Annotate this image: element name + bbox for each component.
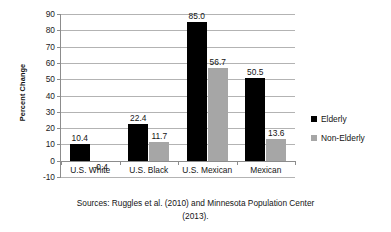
- legend: ElderlyNon-Elderly: [311, 114, 365, 152]
- category-tick: [295, 161, 296, 165]
- category-label-3: Mexican: [250, 165, 281, 175]
- caption-line-2: (2013).: [0, 210, 391, 223]
- y-tick-label: -10: [43, 172, 55, 182]
- category-label-0: U.S. White: [70, 165, 110, 175]
- category-tick: [61, 161, 62, 165]
- y-tick-label: 70: [46, 42, 55, 52]
- legend-item-non-elderly[interactable]: Non-Elderly: [311, 133, 365, 143]
- category-tick: [178, 161, 179, 165]
- y-tick-label: 40: [46, 91, 55, 101]
- y-tick-label: 90: [46, 9, 55, 19]
- y-tick-label: 10: [46, 139, 55, 149]
- category-tick: [120, 161, 121, 165]
- category-label-2: U.S. Mexican: [182, 165, 232, 175]
- y-tick-label: 60: [46, 58, 55, 68]
- y-tick-label: 0: [50, 156, 55, 166]
- y-tick-mark: [57, 177, 61, 178]
- legend-swatch-icon: [311, 116, 317, 122]
- caption-line-1: Sources: Ruggles et al. (2010) and Minne…: [0, 197, 391, 210]
- legend-label: Elderly: [321, 114, 347, 124]
- y-tick-label: 80: [46, 25, 55, 35]
- legend-swatch-icon: [311, 135, 317, 141]
- legend-label: Non-Elderly: [321, 133, 365, 143]
- y-tick-label: 30: [46, 107, 55, 117]
- category-tick: [237, 161, 238, 165]
- y-axis-title: Percent Change: [18, 38, 27, 148]
- category-label-1: U.S. Black: [129, 165, 168, 175]
- chart-caption: Sources: Ruggles et al. (2010) and Minne…: [0, 197, 391, 222]
- legend-item-elderly[interactable]: Elderly: [311, 114, 365, 124]
- y-tick-label: 20: [46, 123, 55, 133]
- plot-area: -100102030405060708090 10.4-0.422.411.78…: [61, 14, 295, 177]
- bar-chart: Percent Change -100102030405060708090 10…: [0, 0, 391, 232]
- gridline--10: [61, 177, 295, 178]
- category-labels: U.S. WhiteU.S. BlackU.S. MexicanMexican: [61, 14, 295, 177]
- y-tick-label: 50: [46, 74, 55, 84]
